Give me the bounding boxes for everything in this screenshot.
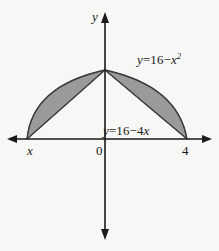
left-chord — [27, 70, 105, 139]
parabola-eq-exponent: 2 — [177, 51, 181, 61]
x-tick-label-left: x — [27, 144, 33, 157]
x-axis-arrow-left — [7, 135, 17, 143]
y-axis-arrow-up — [101, 12, 109, 23]
x-tick-label-right: 4 — [182, 144, 189, 157]
parabola-eq-operator: =16− — [143, 52, 171, 67]
line-eq-operator: =16−4 — [109, 123, 144, 138]
y-axis-arrow-down — [101, 229, 109, 240]
line-equation-label: y=16−4x — [103, 124, 149, 137]
y-axis-label: y — [92, 10, 98, 23]
x-axis-arrow-right — [202, 135, 212, 143]
origin-label: 0 — [96, 144, 103, 157]
math-figure-container: y y=16−x2 y=16−4x x 0 4 — [0, 0, 219, 251]
parabola-equation-label: y=16−x2 — [137, 52, 181, 66]
line-eq-variable: x — [144, 123, 150, 138]
